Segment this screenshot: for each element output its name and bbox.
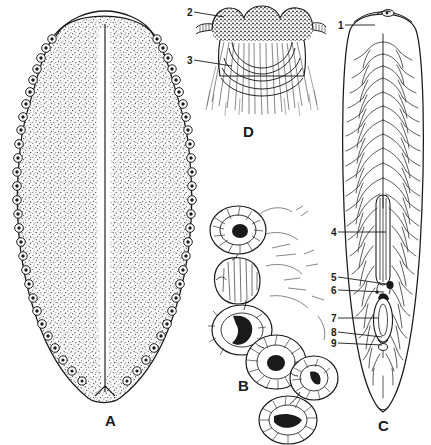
leader-label-8: 8 <box>331 328 337 338</box>
leader-label-5: 5 <box>331 273 337 283</box>
leader-label-3: 3 <box>187 56 193 66</box>
leader-line-5 <box>338 277 386 284</box>
leader-line-8 <box>338 332 382 337</box>
leader-line-6 <box>338 290 384 292</box>
leader-line-3 <box>194 60 232 66</box>
leader-label-2: 2 <box>187 8 193 18</box>
leader-lines-overlay <box>0 0 431 445</box>
leader-label-4: 4 <box>331 228 337 238</box>
leader-label-9: 9 <box>331 339 337 349</box>
leader-line-9 <box>338 343 382 345</box>
panel-letter-b: B <box>238 378 249 393</box>
leader-label-6: 6 <box>331 286 337 296</box>
leader-label-1: 1 <box>338 21 344 31</box>
panel-letter-a: A <box>105 413 116 428</box>
leader-line-2 <box>194 12 224 17</box>
leader-line-group <box>194 12 386 345</box>
panel-letter-d: D <box>243 124 254 139</box>
panel-letter-c: C <box>378 418 389 433</box>
leader-label-7: 7 <box>331 314 337 324</box>
figure-plate: 1 2 3 4 5 6 7 8 9 A B C D <box>0 0 431 445</box>
